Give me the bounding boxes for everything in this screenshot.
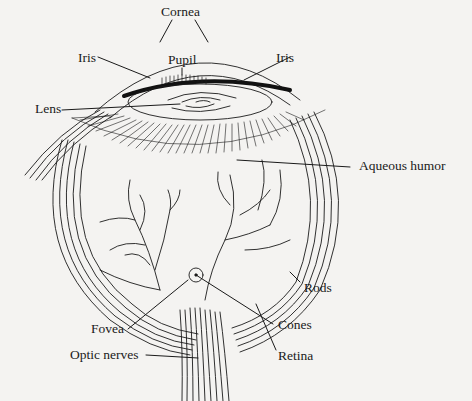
label-cornea: Cornea	[161, 5, 200, 19]
label-pupil: Pupil	[168, 53, 197, 67]
eye-illustration	[0, 0, 472, 401]
cornea-shape	[95, 63, 300, 118]
label-iris-left: Iris	[78, 51, 96, 65]
ciliary-body	[72, 110, 325, 153]
label-retina: Retina	[278, 349, 313, 363]
eye-diagram: Cornea Iris Pupil Iris Lens Aqueous humo…	[0, 0, 472, 401]
blood-vessels-right	[205, 160, 290, 300]
label-cones: Cones	[278, 318, 312, 332]
label-lens: Lens	[35, 102, 61, 116]
label-fovea: Fovea	[91, 322, 124, 336]
lens-shape	[128, 84, 272, 120]
blood-vessels-left	[100, 180, 180, 290]
label-aqueous-humor: Aqueous humor	[359, 159, 446, 173]
label-rods: Rods	[304, 281, 332, 295]
label-optic-nerves: Optic nerves	[70, 348, 139, 362]
optic-nerve-bundle	[180, 308, 229, 401]
label-iris-right: Iris	[276, 51, 294, 65]
